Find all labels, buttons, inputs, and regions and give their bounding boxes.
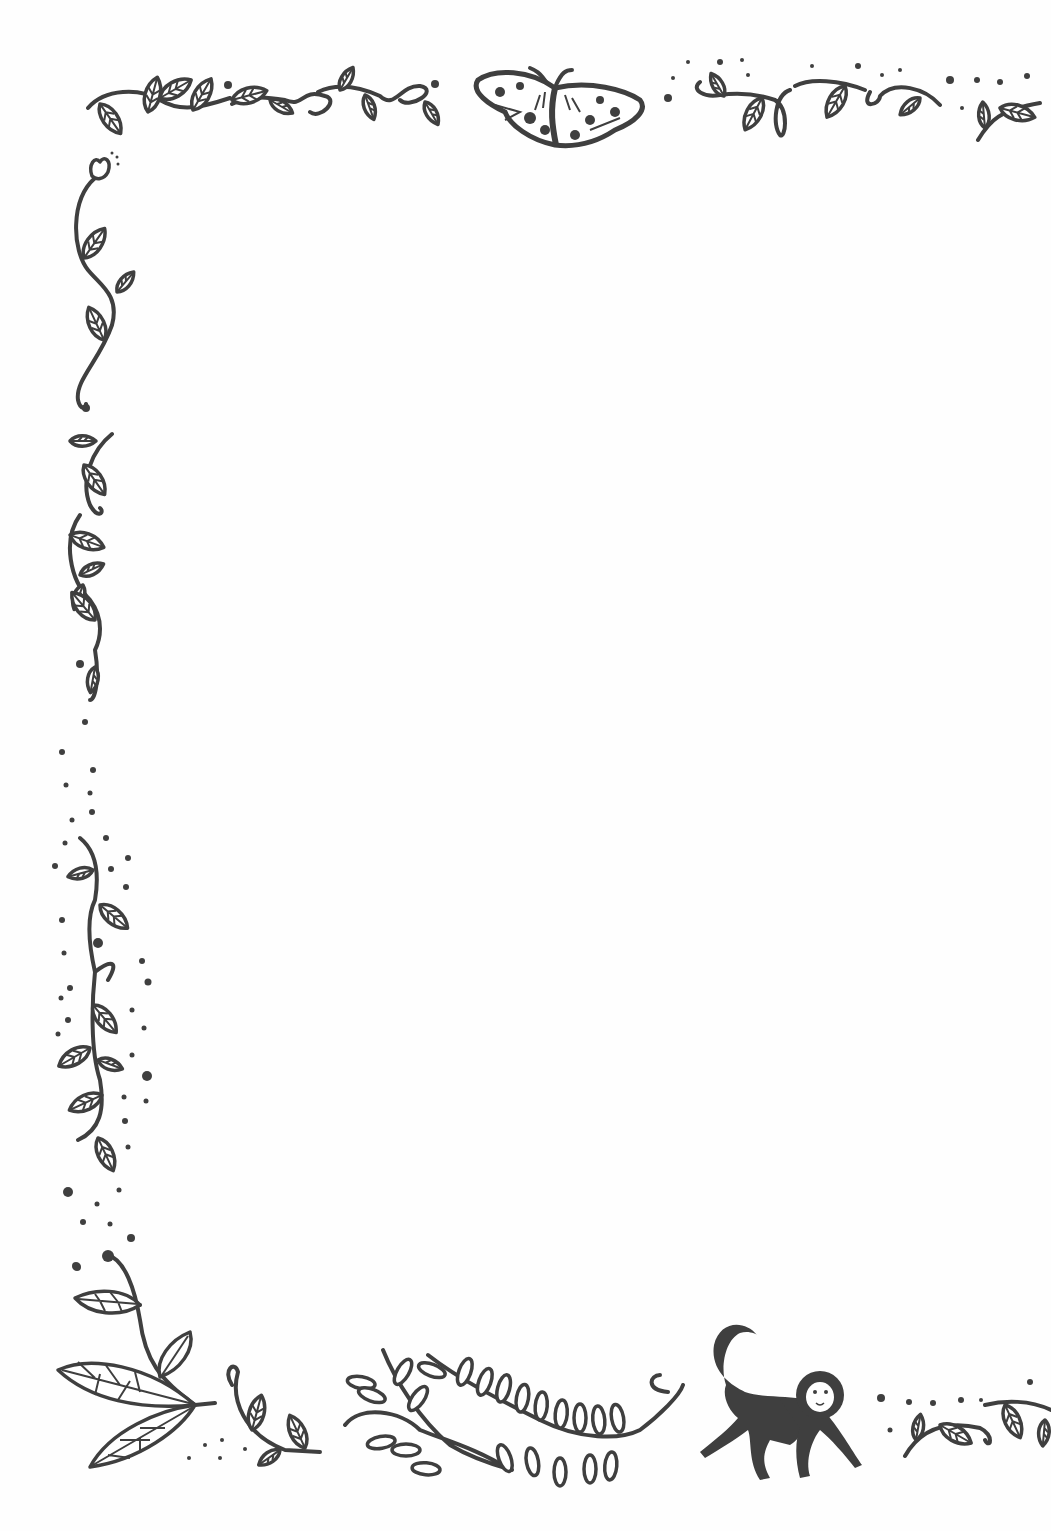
bottom-left-branch	[58, 1250, 320, 1469]
border-artwork	[0, 0, 1051, 1531]
left-flower-vine	[76, 152, 138, 413]
left-lower-vine	[52, 749, 152, 1270]
top-right-vine	[664, 58, 1040, 140]
bottom-fern	[345, 1350, 683, 1486]
top-left-vine	[88, 65, 443, 138]
decorative-page	[0, 0, 1051, 1531]
bottom-right-vine	[877, 1379, 1051, 1456]
monkey-illustration	[700, 1325, 862, 1480]
moth-illustration	[476, 68, 642, 146]
left-mid-vine	[66, 434, 112, 725]
